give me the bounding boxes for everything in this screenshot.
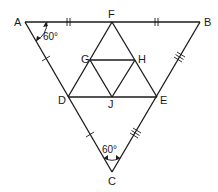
tick-mark-ad	[42, 56, 50, 61]
inner-triangle-ghj	[90, 60, 135, 97]
label-f: F	[108, 8, 115, 20]
label-e: E	[160, 94, 167, 106]
angle-label-c: 60°	[102, 144, 117, 155]
geometry-diagram: 60° 60° A B F C D E G H J	[0, 0, 218, 192]
label-h: H	[138, 53, 146, 65]
label-d: D	[58, 94, 66, 106]
angle-label-a: 60°	[43, 31, 58, 42]
segment-gj	[90, 60, 112, 97]
tick-marks-ec	[130, 128, 141, 138]
label-b: B	[204, 16, 211, 28]
segment-hj	[112, 60, 135, 97]
label-g: G	[81, 53, 90, 65]
tick-mark-dc	[86, 132, 94, 137]
label-c: C	[108, 175, 116, 187]
label-a: A	[14, 16, 22, 28]
tick-marks-be	[174, 52, 185, 62]
label-j: J	[108, 98, 114, 110]
angle-arc-c	[104, 155, 120, 160]
